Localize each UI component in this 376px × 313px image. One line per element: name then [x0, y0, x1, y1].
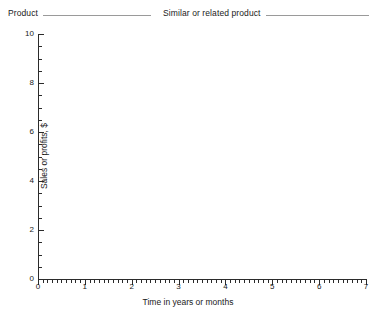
- x-axis-minor-tick: [155, 279, 156, 283]
- x-axis-minor-tick: [239, 279, 240, 283]
- x-axis-minor-tick: [333, 279, 334, 283]
- y-axis-tick-label: 0: [30, 275, 34, 283]
- x-axis-title: Time in years or months: [0, 297, 376, 307]
- x-axis-tick-label: 3: [176, 283, 180, 291]
- x-axis-tick-label: 6: [317, 283, 321, 291]
- x-axis-minor-tick: [207, 279, 208, 283]
- x-axis-minor-tick: [314, 279, 315, 283]
- x-axis-minor-tick: [113, 279, 114, 283]
- x-axis-minor-tick: [277, 279, 278, 283]
- x-axis-minor-tick: [221, 279, 222, 283]
- x-axis-minor-tick: [160, 279, 161, 283]
- x-axis-tick-label: 2: [129, 283, 133, 291]
- x-axis-minor-tick: [329, 279, 330, 283]
- x-axis-minor-tick: [80, 279, 81, 283]
- y-axis-tick-label: 2: [30, 226, 34, 234]
- x-axis-minor-tick: [118, 279, 119, 283]
- similar-product-field-label: Similar or related product: [163, 8, 261, 18]
- x-axis-minor-tick: [104, 279, 105, 283]
- x-axis-minor-tick: [258, 279, 259, 283]
- x-axis-minor-tick: [235, 279, 236, 283]
- x-axis-minor-tick: [47, 279, 48, 283]
- chart-plot: 0246810 01234567 Sales or profits, $: [38, 34, 366, 279]
- x-axis-minor-tick: [141, 279, 142, 283]
- x-axis-minor-tick: [244, 279, 245, 283]
- x-axis-minor-tick: [268, 279, 269, 283]
- x-axis-minor-tick: [43, 279, 44, 283]
- x-axis-minor-tick: [216, 279, 217, 283]
- x-axis-minor-tick: [197, 279, 198, 283]
- x-axis-minor-tick: [305, 279, 306, 283]
- x-axis-minor-tick: [61, 279, 62, 283]
- x-axis-minor-tick: [300, 279, 301, 283]
- plot-area[interactable]: [38, 34, 366, 279]
- y-axis-tick-label: 4: [30, 177, 34, 185]
- x-axis-minor-tick: [66, 279, 67, 283]
- x-axis-minor-tick: [357, 279, 358, 283]
- x-axis-minor-tick: [146, 279, 147, 283]
- x-axis-minor-tick: [150, 279, 151, 283]
- x-axis-minor-tick: [338, 279, 339, 283]
- x-axis-minor-tick: [347, 279, 348, 283]
- x-axis-minor-tick: [122, 279, 123, 283]
- x-axis-minor-tick: [174, 279, 175, 283]
- product-field[interactable]: Product: [8, 8, 151, 18]
- x-axis-minor-tick: [343, 279, 344, 283]
- x-axis-minor-tick: [90, 279, 91, 283]
- x-axis-minor-tick: [361, 279, 362, 283]
- x-axis-tick-label: 0: [36, 283, 40, 291]
- x-axis-minor-tick: [282, 279, 283, 283]
- x-axis-minor-tick: [254, 279, 255, 283]
- x-axis-minor-tick: [188, 279, 189, 283]
- y-axis-tick-label: 10: [25, 30, 34, 38]
- x-axis-minor-tick: [230, 279, 231, 283]
- x-axis-minor-tick: [296, 279, 297, 283]
- x-axis-minor-tick: [249, 279, 250, 283]
- worksheet-page: Product Similar or related product 02468…: [0, 0, 376, 313]
- product-field-rule[interactable]: [43, 15, 151, 16]
- x-axis-minor-tick: [165, 279, 166, 283]
- x-axis-minor-tick: [211, 279, 212, 283]
- x-axis-minor-tick: [99, 279, 100, 283]
- y-axis-tick-label: 6: [30, 128, 34, 136]
- x-axis-minor-tick: [202, 279, 203, 283]
- x-axis-minor-tick: [94, 279, 95, 283]
- y-axis-tick-label: 8: [30, 79, 34, 87]
- x-axis-minor-tick: [75, 279, 76, 283]
- similar-product-field-rule[interactable]: [266, 15, 369, 16]
- x-axis-minor-tick: [108, 279, 109, 283]
- similar-product-field[interactable]: Similar or related product: [163, 8, 369, 18]
- x-axis-minor-tick: [291, 279, 292, 283]
- product-field-label: Product: [8, 8, 38, 18]
- x-axis-tick-label: 5: [270, 283, 274, 291]
- x-axis-tick-label: 1: [83, 283, 87, 291]
- x-axis-minor-tick: [57, 279, 58, 283]
- y-axis-title: Sales or profits, $: [39, 34, 51, 279]
- x-axis-minor-tick: [324, 279, 325, 283]
- x-axis-minor-tick: [193, 279, 194, 283]
- x-axis-minor-tick: [286, 279, 287, 283]
- x-axis-minor-tick: [310, 279, 311, 283]
- x-axis-minor-tick: [183, 279, 184, 283]
- x-axis-tick-label: 7: [364, 283, 368, 291]
- x-axis-minor-tick: [352, 279, 353, 283]
- x-axis-minor-tick: [169, 279, 170, 283]
- x-axis-minor-tick: [71, 279, 72, 283]
- x-axis-minor-tick: [263, 279, 264, 283]
- x-axis-minor-tick: [127, 279, 128, 283]
- x-axis-minor-tick: [136, 279, 137, 283]
- x-axis-tick-label: 4: [223, 283, 227, 291]
- x-axis-minor-tick: [52, 279, 53, 283]
